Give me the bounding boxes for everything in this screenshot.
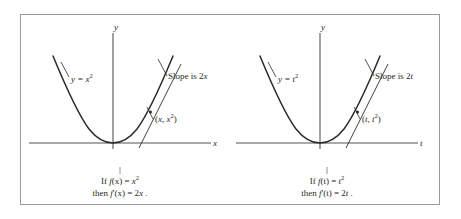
- caption-line1-exponent: 2: [136, 174, 139, 181]
- screenshot-root: y x y = x2 Slope is 2x (x, x2) If f(x) =…: [0, 0, 461, 219]
- figure-frame: y x y = x2 Slope is 2x (x, x2) If f(x) =…: [20, 14, 440, 205]
- curve-label-x: y = x2: [71, 75, 93, 84]
- t-axis-label: t: [420, 139, 423, 148]
- figure-panel-x: y x y = x2 Slope is 2x (x, x2) If f(x) =…: [21, 15, 231, 206]
- caption-line-1: If f(x) = x2: [60, 175, 180, 187]
- caption-line1-exponent: 2: [341, 174, 344, 181]
- tangent-point-marker-x: [149, 111, 152, 114]
- figure-panel-t: y t y = t2 Slope is 2t (t, t2) If f(t) =…: [228, 15, 438, 206]
- curve-label-prefix: y =: [71, 74, 86, 84]
- caption-line2-period: .: [348, 188, 353, 198]
- caption-line2-prefix: then: [93, 188, 111, 198]
- point-label-t: (t, t2): [362, 115, 381, 124]
- caption-line1-arg: (t) =: [320, 176, 338, 186]
- caption-line-1: If f(t) = t2: [267, 175, 387, 187]
- curve-label-prefix: y =: [278, 74, 293, 84]
- slope-label-text: Slope is 2: [168, 71, 204, 81]
- curve-label-exponent: 2: [295, 72, 298, 79]
- slope-label-t: Slope is 2t: [375, 72, 413, 81]
- curve-leader-line-t: [268, 62, 276, 77]
- caption-line2-period: .: [143, 188, 148, 198]
- caption-line-2: then f'(x) = 2x .: [60, 187, 180, 199]
- slope-leader-line-x: [158, 59, 167, 76]
- slope-leader-line-t: [365, 59, 374, 76]
- point-label-close: ): [174, 114, 177, 124]
- panel-caption-x: If f(x) = x2 then f'(x) = 2x .: [60, 175, 180, 199]
- y-axis-label: y: [321, 23, 325, 32]
- caption-line2-rest: (x) = 2: [114, 188, 139, 198]
- caption-line2-prefix: then: [301, 188, 319, 198]
- point-label-x: (x, x2): [155, 115, 177, 124]
- point-label-close: ): [378, 114, 381, 124]
- slope-label-variable: t: [411, 71, 414, 81]
- slope-label-variable: x: [204, 71, 208, 81]
- caption-line1-prefix: If: [101, 176, 109, 186]
- caption-line1-arg: (x) =: [112, 176, 132, 186]
- curve-label-t: y = t2: [278, 75, 298, 84]
- caption-line2-rest: (t) = 2: [323, 188, 346, 198]
- tangent-point-marker-t: [356, 111, 359, 114]
- x-axis-label: x: [213, 139, 217, 148]
- slope-label-x: Slope is 2x: [168, 72, 208, 81]
- curve-label-exponent: 2: [90, 72, 93, 79]
- y-axis-label: y: [114, 23, 118, 32]
- caption-line-2: then f'(t) = 2t .: [267, 187, 387, 199]
- panel-caption-t: If f(t) = t2 then f'(t) = 2t .: [267, 175, 387, 199]
- curve-leader-line-x: [61, 62, 69, 77]
- caption-line1-prefix: If: [310, 176, 318, 186]
- slope-label-text: Slope is 2: [375, 71, 411, 81]
